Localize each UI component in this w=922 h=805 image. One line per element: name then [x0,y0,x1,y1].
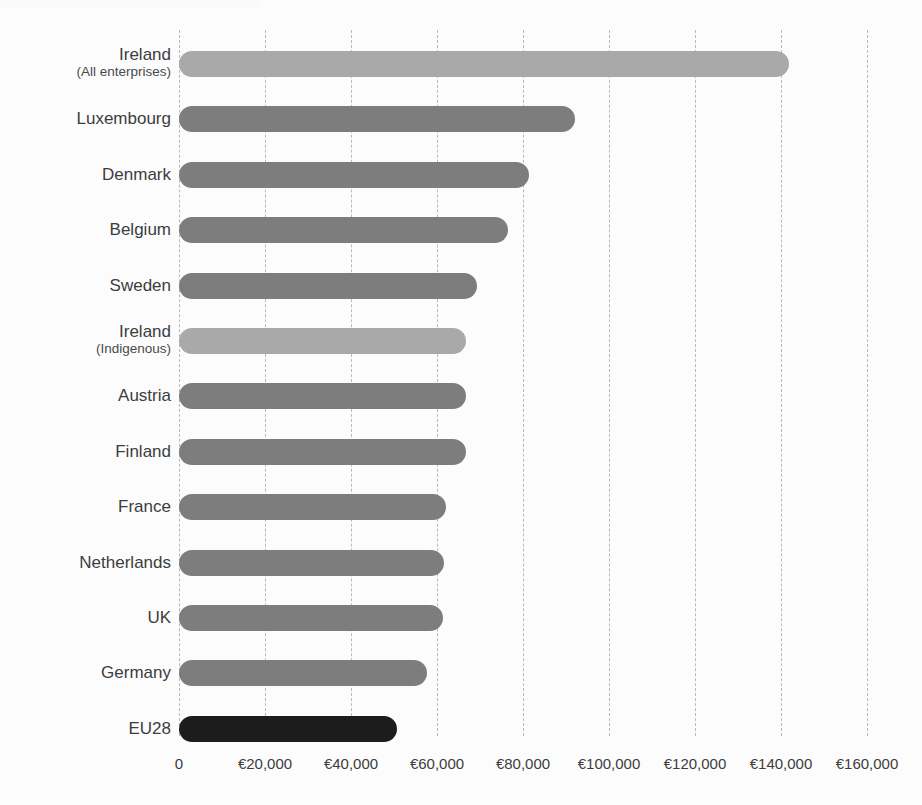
bar-row [179,439,867,465]
category-label-main: UK [1,608,171,627]
category-label: Ireland(All enterprises) [1,45,171,83]
x-tick-label: €140,000 [750,755,813,772]
category-label-main: Sweden [1,276,171,295]
category-label-main: EU28 [1,719,171,738]
bar [179,51,789,77]
clipped-title-artifact [0,0,260,7]
bar-row [179,660,867,686]
bar [179,217,508,243]
bar [179,383,466,409]
gridline [867,30,868,736]
bar [179,716,397,742]
x-tick-label: €60,000 [410,755,464,772]
category-label: Finland [1,442,171,462]
bar-row [179,273,867,299]
category-label-main: Austria [1,386,171,405]
bar-chart: Ireland(All enterprises)LuxembourgDenmar… [0,0,922,805]
category-label-main: Belgium [1,220,171,239]
category-label: UK [1,608,171,628]
category-label: EU28 [1,719,171,739]
category-label: France [1,497,171,517]
category-label-main: Ireland [1,322,171,341]
category-label: Germany [1,663,171,683]
bar-row [179,106,867,132]
x-tick-label: €40,000 [324,755,378,772]
category-label-sub: (Indigenous) [1,341,171,356]
category-label: Denmark [1,165,171,185]
x-tick-label: €160,000 [836,755,899,772]
bar [179,494,446,520]
bar-row [179,217,867,243]
category-label: Ireland(Indigenous) [1,322,171,360]
bar-row [179,162,867,188]
bar [179,106,575,132]
category-label: Netherlands [1,553,171,573]
category-label-main: Finland [1,442,171,461]
bar-row [179,550,867,576]
bar [179,439,466,465]
bar-row [179,51,867,77]
bar [179,605,443,631]
category-label-sub: (All enterprises) [1,64,171,79]
x-tick-label: €120,000 [664,755,727,772]
bar [179,328,466,354]
bar [179,273,477,299]
category-axis: Ireland(All enterprises)LuxembourgDenmar… [0,30,171,736]
category-label: Belgium [1,220,171,240]
bar-row [179,605,867,631]
category-label: Luxembourg [1,109,171,129]
category-label: Austria [1,386,171,406]
category-label-main: Netherlands [1,553,171,572]
x-tick-label: €80,000 [496,755,550,772]
category-label-main: Luxembourg [1,109,171,128]
bar-row [179,328,867,354]
category-label-main: Ireland [1,45,171,64]
bar-row [179,494,867,520]
bar [179,660,427,686]
bar-row [179,716,867,742]
category-label-main: Denmark [1,165,171,184]
x-tick-label: €100,000 [578,755,641,772]
plot-area [179,30,867,736]
bar [179,162,529,188]
x-tick-label: €20,000 [238,755,292,772]
bar [179,550,444,576]
x-axis: 0€20,000€40,000€60,000€80,000€100,000€12… [179,755,867,785]
category-label-main: France [1,497,171,516]
x-tick-label: 0 [175,755,183,772]
category-label-main: Germany [1,663,171,682]
category-label: Sweden [1,276,171,296]
bar-row [179,383,867,409]
